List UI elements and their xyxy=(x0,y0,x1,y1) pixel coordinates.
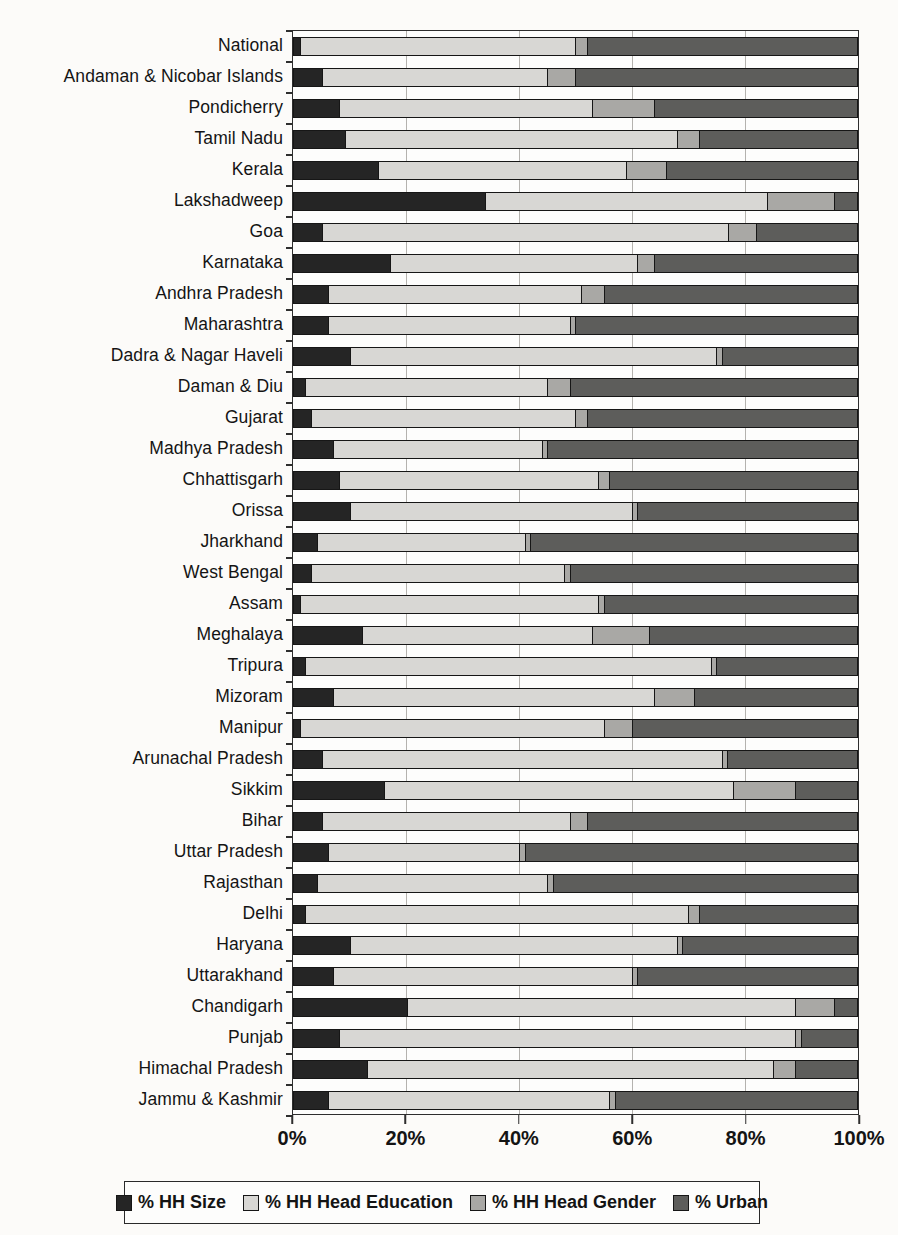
y-axis-tick xyxy=(286,92,293,93)
bar-segment xyxy=(575,410,586,427)
category-label: Rajasthan xyxy=(6,867,292,898)
legend-label: % HH Head Education xyxy=(265,1192,453,1213)
bar-segment xyxy=(632,720,857,737)
legend-label: % Urban xyxy=(695,1192,768,1213)
bar-segment xyxy=(350,348,716,365)
category-label: Pondicherry xyxy=(6,92,292,123)
category-label: Haryana xyxy=(6,929,292,960)
y-axis-tick xyxy=(286,402,293,403)
bar-segment xyxy=(294,751,322,768)
stacked-bar xyxy=(293,161,858,180)
bar-segment xyxy=(328,317,570,334)
bar-segment xyxy=(305,906,688,923)
bar-segment xyxy=(795,999,834,1016)
bar-row xyxy=(293,899,858,930)
y-axis-tick xyxy=(286,867,293,868)
bar-row xyxy=(293,341,858,372)
category-label: Chandigarh xyxy=(6,991,292,1022)
y-axis-tick xyxy=(286,526,293,527)
bar-segment xyxy=(294,782,384,799)
bar-segment xyxy=(305,379,547,396)
stacked-bar xyxy=(293,130,858,149)
bar-segment xyxy=(294,1061,367,1078)
bar-segment xyxy=(587,410,857,427)
bar-row xyxy=(293,837,858,868)
bar-segment xyxy=(654,255,857,272)
bar-segment xyxy=(362,627,593,644)
bar-segment xyxy=(294,193,485,210)
x-axis-tick-label: 80% xyxy=(726,1127,766,1150)
bar-segment xyxy=(305,658,710,675)
bar-segment xyxy=(300,38,576,55)
legend-item: % HH Head Gender xyxy=(470,1192,656,1213)
bar-row xyxy=(293,372,858,403)
x-axis-tick xyxy=(291,1115,293,1124)
bar-segment xyxy=(294,844,328,861)
bar-segment xyxy=(575,38,586,55)
legend-swatch-icon xyxy=(470,1195,486,1211)
bar-segment xyxy=(294,1030,339,1047)
category-label: Arunachal Pradesh xyxy=(6,743,292,774)
bar-row xyxy=(293,403,858,434)
y-axis-tick xyxy=(286,309,293,310)
bar-segment xyxy=(575,69,857,86)
category-label: Madhya Pradesh xyxy=(6,433,292,464)
category-label: Sikkim xyxy=(6,774,292,805)
bar-segment xyxy=(626,162,665,179)
bar-segment xyxy=(294,379,305,396)
stacked-bar xyxy=(293,37,858,56)
bar-segment xyxy=(525,844,857,861)
bar-row xyxy=(293,651,858,682)
bar-segment xyxy=(716,658,857,675)
category-label: Dadra & Nagar Haveli xyxy=(6,340,292,371)
stacked-bar xyxy=(293,1029,858,1048)
category-label: Tripura xyxy=(6,650,292,681)
category-label: Orissa xyxy=(6,495,292,526)
x-axis-tick-label: 0% xyxy=(278,1127,307,1150)
legend-item: % Urban xyxy=(673,1192,768,1213)
bar-segment xyxy=(699,131,857,148)
bar-row xyxy=(293,248,858,279)
category-label: Punjab xyxy=(6,1022,292,1053)
stacked-bar xyxy=(293,595,858,614)
bar-segment xyxy=(294,224,322,241)
bar-row xyxy=(293,124,858,155)
bar-segment xyxy=(834,999,857,1016)
stacked-bar xyxy=(293,223,858,242)
bar-segment xyxy=(294,503,350,520)
bar-segment xyxy=(300,596,598,613)
bar-segment xyxy=(328,286,581,303)
x-axis-tick-label: 20% xyxy=(385,1127,425,1150)
bar-segment xyxy=(345,131,677,148)
bar-segment xyxy=(609,472,857,489)
stacked-bar xyxy=(293,998,858,1017)
bar-segment xyxy=(547,441,857,458)
bar-segment xyxy=(317,875,548,892)
bar-segment xyxy=(294,906,305,923)
stacked-bar xyxy=(293,440,858,459)
stacked-bar xyxy=(293,936,858,955)
bar-segment xyxy=(294,286,328,303)
bar-segment xyxy=(294,317,328,334)
stacked-bar xyxy=(293,254,858,273)
category-label: Delhi xyxy=(6,898,292,929)
bar-segment xyxy=(773,1061,796,1078)
bar-segment xyxy=(328,844,519,861)
y-axis-tick xyxy=(286,1053,293,1054)
bar-segment xyxy=(654,689,693,706)
stacked-bar xyxy=(293,409,858,428)
y-axis-tick xyxy=(286,371,293,372)
bar-segment xyxy=(604,720,632,737)
y-axis-tick xyxy=(286,991,293,992)
bar-row xyxy=(293,155,858,186)
y-axis-tick xyxy=(286,743,293,744)
bar-segment xyxy=(795,782,857,799)
bar-row xyxy=(293,496,858,527)
y-axis-tick xyxy=(286,805,293,806)
y-axis-tick xyxy=(286,712,293,713)
y-axis-tick xyxy=(286,495,293,496)
bar-row xyxy=(293,744,858,775)
bar-segment xyxy=(637,968,857,985)
bar-segment xyxy=(294,627,362,644)
bar-row xyxy=(293,186,858,217)
